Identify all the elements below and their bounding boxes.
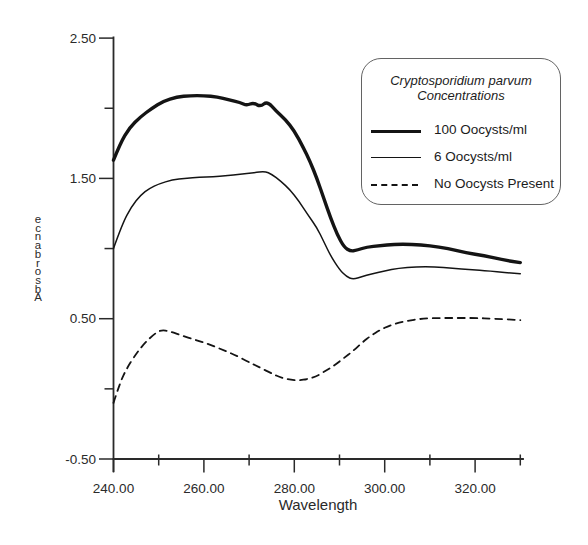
y-axis-label: ecnabrosbA xyxy=(29,215,47,302)
chart-figure: -0.500.501.502.50240.00260.00280.00300.0… xyxy=(0,0,588,545)
y-tick-label: 0.50 xyxy=(70,311,96,326)
legend-label-6-oocysts: 6 Oocysts/ml xyxy=(434,148,512,166)
x-tick-label: 240.00 xyxy=(93,481,134,496)
legend-label-100-oocysts: 100 Oocysts/ml xyxy=(434,121,527,139)
x-tick-label: 320.00 xyxy=(454,481,495,496)
legend-title-line2: Concentrations xyxy=(362,89,560,104)
legend-line-6-oocysts xyxy=(371,157,421,158)
x-tick-label: 260.00 xyxy=(183,481,224,496)
x-tick-label: 300.00 xyxy=(364,481,405,496)
legend-title-line1: Cryptosporidium parvum xyxy=(362,74,560,89)
legend-label-no-oocysts: No Oocysts Present xyxy=(434,175,554,193)
curve-no-oocysts-present xyxy=(114,318,521,403)
legend-box: Cryptosporidium parvum Concentrations 10… xyxy=(361,58,561,205)
x-axis-label: Wavelength xyxy=(248,496,388,513)
x-tick-label: 280.00 xyxy=(274,481,315,496)
y-tick-label: -0.50 xyxy=(65,452,96,467)
legend-title: Cryptosporidium parvum Concentrations xyxy=(362,74,560,103)
y-tick-label: 2.50 xyxy=(70,31,96,46)
legend-line-100-oocysts xyxy=(371,130,421,133)
legend-line-no-oocysts xyxy=(371,184,418,186)
y-tick-label: 1.50 xyxy=(70,171,96,186)
y-axis-label-letter: A xyxy=(29,293,47,302)
